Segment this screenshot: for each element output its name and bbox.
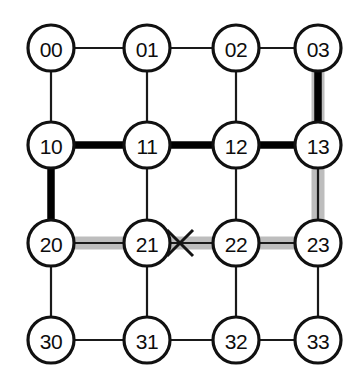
node-label-20: 20 — [40, 233, 62, 256]
node-03[interactable]: 03 — [295, 25, 341, 71]
node-11[interactable]: 11 — [124, 122, 170, 168]
node-label-31: 31 — [136, 330, 158, 353]
node-12[interactable]: 12 — [213, 122, 259, 168]
mesh-network-diagram: 00010203101112132021222330313233 — [0, 0, 363, 386]
mesh-graph-canvas: 00010203101112132021222330313233 — [0, 0, 363, 386]
node-13[interactable]: 13 — [295, 122, 341, 168]
node-label-22: 22 — [225, 233, 247, 256]
node-10[interactable]: 10 — [28, 122, 74, 168]
node-02[interactable]: 02 — [213, 25, 259, 71]
node-20[interactable]: 20 — [28, 220, 74, 266]
node-label-02: 02 — [225, 38, 247, 61]
node-32[interactable]: 32 — [213, 317, 259, 363]
node-23[interactable]: 23 — [295, 220, 341, 266]
node-label-32: 32 — [225, 330, 247, 353]
node-22[interactable]: 22 — [213, 220, 259, 266]
node-01[interactable]: 01 — [124, 25, 170, 71]
node-00[interactable]: 00 — [28, 25, 74, 71]
node-label-01: 01 — [136, 38, 158, 61]
node-label-00: 00 — [40, 38, 62, 61]
edge-highlight-layer — [67, 64, 318, 243]
node-label-33: 33 — [307, 330, 329, 353]
node-layer: 00010203101112132021222330313233 — [28, 25, 341, 363]
edge-layer — [51, 48, 318, 340]
node-label-10: 10 — [40, 135, 62, 158]
node-21[interactable]: 21 — [124, 220, 170, 266]
node-label-11: 11 — [137, 135, 158, 158]
node-31[interactable]: 31 — [124, 317, 170, 363]
node-label-30: 30 — [40, 330, 62, 353]
node-label-23: 23 — [307, 233, 329, 256]
node-33[interactable]: 33 — [295, 317, 341, 363]
node-label-13: 13 — [307, 135, 329, 158]
node-label-21: 21 — [136, 233, 158, 256]
node-label-03: 03 — [307, 38, 329, 61]
node-30[interactable]: 30 — [28, 317, 74, 363]
node-label-12: 12 — [225, 135, 247, 158]
